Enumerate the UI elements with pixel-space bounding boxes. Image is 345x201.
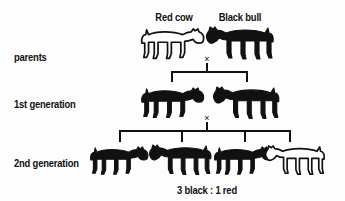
label-red-cow: Red cow [155, 13, 192, 23]
label-phenotype-ratio: 3 black : 1 red [177, 186, 237, 196]
cattle-f1-black-bull [214, 87, 279, 118]
row-label-parents: parents [14, 53, 47, 63]
cattle-f2-black-cow-1 [91, 147, 148, 174]
cattle-f2-red-bull-4 [266, 146, 325, 174]
cross-symbol-f1: × [204, 113, 209, 123]
genetics-cross-diagram: parents 1st generation 2nd generation Re… [0, 0, 345, 201]
connector-f1-to-f2 [119, 122, 291, 142]
cattle-parent-black-bull [207, 27, 274, 59]
cattle-f2-black-cow-3 [215, 147, 272, 174]
row-label-2nd-generation: 2nd generation [14, 159, 79, 169]
cattle-parent-red-cow [142, 29, 204, 58]
connector-parents-to-f1 [171, 63, 248, 82]
cattle-f1-black-cow [142, 88, 204, 117]
cross-symbol-parents: × [204, 54, 209, 64]
cattle-f2-black-bull-2 [150, 145, 211, 174]
row-label-1st-generation: 1st generation [14, 100, 76, 110]
label-black-bull: Black bull [219, 13, 262, 23]
